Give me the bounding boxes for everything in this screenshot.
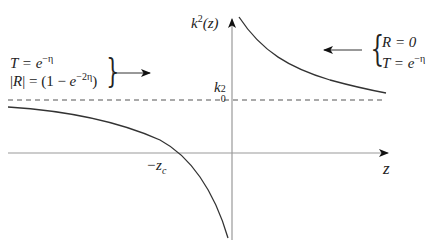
- right-annotation-line1: R = 0: [382, 35, 416, 50]
- x-axis-label: z: [383, 160, 390, 177]
- curve-right: [239, 17, 386, 93]
- right-annotation-line2: T = e−η: [382, 54, 425, 71]
- y-axis-label: k2(z): [191, 14, 219, 31]
- left-annotation-line2: |R| = (1 − e−2η): [10, 72, 97, 89]
- zc-label: −zc: [146, 158, 166, 176]
- curve-left: [8, 107, 228, 238]
- k0-label: k20: [214, 80, 228, 95]
- left-brace: }: [106, 50, 119, 90]
- left-annotation-line1: T = e−η: [10, 54, 53, 71]
